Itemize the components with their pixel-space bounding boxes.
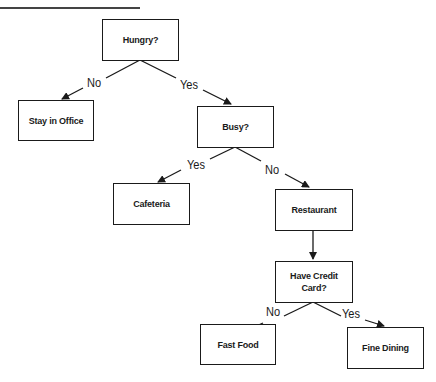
node-have-credit-card-label: Have Credit Card?: [288, 270, 340, 294]
edge-hungry-no-a: [106, 60, 140, 78]
node-stay-in-office: Stay in Office: [18, 100, 94, 141]
node-stay-in-office-label: Stay in Office: [29, 115, 84, 127]
edge-busy-yes-a: [210, 147, 235, 159]
node-have-credit-card: Have Credit Card?: [275, 261, 353, 303]
edge-hungry-yes-b: [203, 90, 231, 104]
edge-label-hungry-no: No: [87, 75, 101, 90]
edge-card-yes-a: [313, 302, 341, 316]
edge-card-yes-b: [365, 320, 384, 326]
edge-label-card-no: No: [266, 304, 280, 319]
node-fine-dining-label: Fine Dining: [362, 342, 409, 354]
edge-hungry-no-b: [62, 88, 83, 99]
node-restaurant: Restaurant: [275, 189, 353, 231]
edge-busy-no-b: [285, 174, 309, 187]
node-fine-dining: Fine Dining: [347, 327, 424, 369]
node-fast-food-label: Fast Food: [217, 339, 258, 351]
node-busy-label: Busy?: [222, 121, 249, 133]
node-busy: Busy?: [197, 106, 274, 148]
node-cafeteria-label: Cafeteria: [133, 198, 170, 210]
edge-label-busy-no: No: [265, 162, 279, 177]
edge-label-busy-yes: Yes: [187, 157, 205, 172]
edge-label-card-yes: Yes: [342, 306, 360, 321]
edge-hungry-yes-a: [140, 60, 176, 78]
edge-busy-yes-b: [158, 170, 181, 182]
edge-busy-no-a: [235, 147, 261, 161]
edge-card-no-a: [284, 302, 313, 316]
edge-label-hungry-yes: Yes: [180, 77, 198, 92]
node-restaurant-label: Restaurant: [291, 204, 336, 216]
node-hungry: Hungry?: [102, 19, 179, 61]
node-cafeteria: Cafeteria: [113, 183, 190, 225]
node-hungry-label: Hungry?: [123, 34, 159, 46]
node-fast-food: Fast Food: [200, 324, 276, 365]
